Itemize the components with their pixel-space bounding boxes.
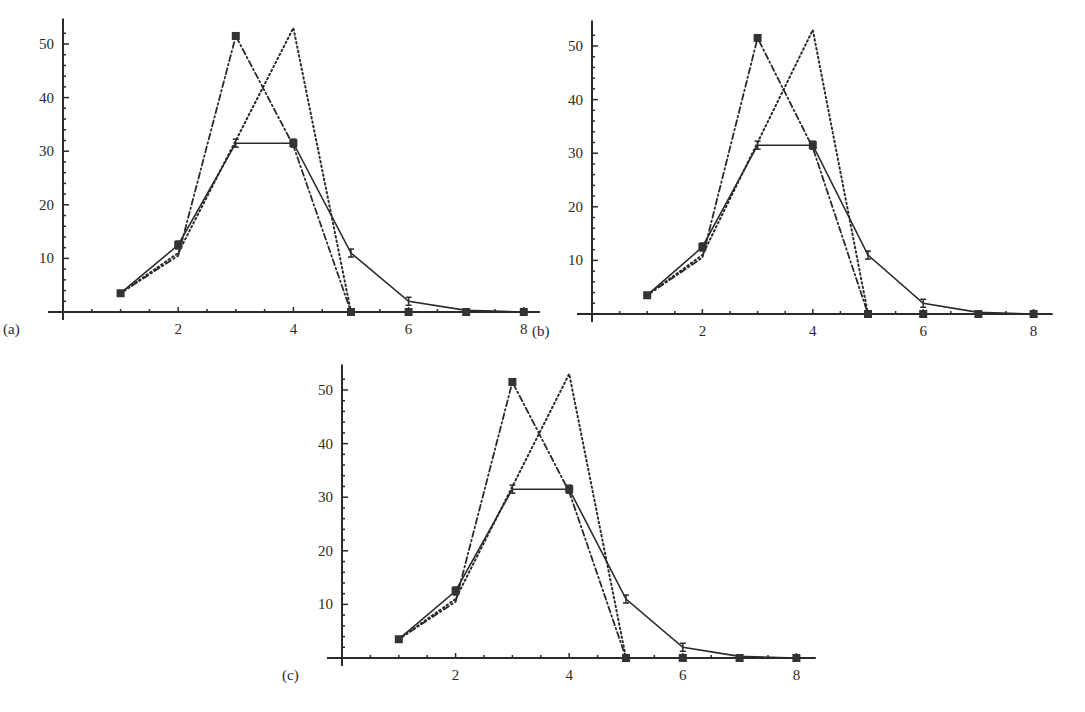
chart-svg-c: 24681020304050(c) bbox=[280, 345, 820, 712]
data-marker bbox=[289, 139, 297, 147]
x-tick-label: 4 bbox=[290, 321, 298, 337]
panel-label: (b) bbox=[532, 323, 550, 340]
series-line bbox=[399, 374, 626, 658]
x-tick-label: 8 bbox=[793, 667, 801, 683]
data-marker bbox=[405, 308, 413, 316]
square-markers bbox=[395, 378, 801, 662]
series-dotted bbox=[647, 30, 868, 314]
y-tick-label: 40 bbox=[318, 436, 333, 452]
data-marker bbox=[809, 141, 817, 149]
chart-svg-b: 24681020304050(b) bbox=[530, 0, 1085, 350]
y-tick-label: 50 bbox=[39, 36, 54, 52]
series-line bbox=[121, 28, 351, 312]
x-tick-label: 6 bbox=[679, 667, 687, 683]
data-marker bbox=[174, 241, 182, 249]
data-marker bbox=[520, 308, 528, 316]
y-tick-label: 30 bbox=[318, 489, 333, 505]
y-tick-label: 50 bbox=[568, 38, 583, 54]
x-tick-label: 8 bbox=[1030, 323, 1038, 339]
chart-svg-a: 24681020304050(a) bbox=[0, 0, 540, 350]
data-marker bbox=[754, 34, 762, 42]
series-dash-dot bbox=[121, 36, 351, 312]
series-line bbox=[121, 143, 524, 312]
series-dotted bbox=[121, 28, 351, 312]
y-tick-label: 30 bbox=[39, 143, 54, 159]
data-marker bbox=[232, 32, 240, 40]
data-marker bbox=[792, 654, 800, 662]
y-tick-label: 40 bbox=[568, 92, 583, 108]
x-tick-label: 4 bbox=[809, 323, 817, 339]
axes: 24681020304050(b) bbox=[532, 21, 1053, 340]
axes: 24681020304050(c) bbox=[282, 365, 816, 684]
data-marker bbox=[974, 310, 982, 318]
y-tick-label: 50 bbox=[318, 382, 333, 398]
chart-panel-a: 24681020304050(a) bbox=[0, 0, 540, 350]
panel-label: (a) bbox=[3, 321, 20, 338]
y-tick-label: 10 bbox=[39, 250, 54, 266]
x-tick-label: 2 bbox=[699, 323, 707, 339]
series-dash-dot bbox=[647, 38, 868, 314]
y-tick-label: 20 bbox=[39, 197, 54, 213]
y-tick-label: 30 bbox=[568, 145, 583, 161]
series-solid-with-error-bars bbox=[399, 485, 797, 658]
axes: 24681020304050(a) bbox=[3, 19, 540, 338]
data-marker bbox=[508, 378, 516, 386]
x-tick-label: 6 bbox=[919, 323, 927, 339]
chart-panel-c: 24681020304050(c) bbox=[280, 345, 820, 712]
panel-label: (c) bbox=[282, 667, 299, 684]
data-marker bbox=[622, 654, 630, 662]
series-line bbox=[399, 382, 626, 658]
x-tick-label: 2 bbox=[174, 321, 182, 337]
data-marker bbox=[919, 310, 927, 318]
y-tick-label: 10 bbox=[318, 596, 333, 612]
x-tick-label: 2 bbox=[452, 667, 460, 683]
data-marker bbox=[347, 308, 355, 316]
data-marker bbox=[117, 289, 125, 297]
data-marker bbox=[395, 635, 403, 643]
series-dotted bbox=[399, 374, 626, 658]
data-marker bbox=[1030, 310, 1038, 318]
data-marker bbox=[864, 310, 872, 318]
data-marker bbox=[452, 587, 460, 595]
series-dash-dot bbox=[399, 382, 626, 658]
data-marker bbox=[679, 654, 687, 662]
x-tick-label: 6 bbox=[405, 321, 413, 337]
chart-panel-b: 24681020304050(b) bbox=[530, 0, 1085, 350]
series-line bbox=[121, 36, 351, 312]
series-line bbox=[647, 30, 868, 314]
y-tick-label: 40 bbox=[39, 90, 54, 106]
x-tick-label: 4 bbox=[565, 667, 573, 683]
series-line bbox=[647, 38, 868, 314]
data-marker bbox=[736, 654, 744, 662]
data-marker bbox=[565, 485, 573, 493]
data-marker bbox=[643, 291, 651, 299]
y-tick-label: 10 bbox=[568, 252, 583, 268]
y-tick-label: 20 bbox=[318, 543, 333, 559]
data-marker bbox=[698, 243, 706, 251]
y-tick-label: 20 bbox=[568, 199, 583, 215]
data-marker bbox=[462, 308, 470, 316]
x-tick-label: 8 bbox=[520, 321, 528, 337]
